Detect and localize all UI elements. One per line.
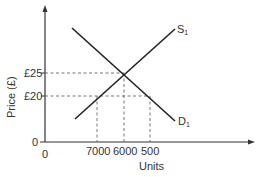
origin-x-label: 0 xyxy=(42,148,48,160)
demand-label: D1 xyxy=(178,115,190,128)
price-25-label: £25 xyxy=(24,67,42,79)
qty-6000-label: 6000 xyxy=(113,145,137,157)
price-20-label: £20 xyxy=(24,90,42,102)
origin-y-label: 0 xyxy=(32,136,38,148)
qty-500-label: 500 xyxy=(141,145,159,157)
supply-label: S1 xyxy=(177,23,188,36)
x-axis-label: Units xyxy=(139,160,165,172)
qty-7000-label: 7000 xyxy=(86,145,110,157)
x-axis-arrow-icon xyxy=(248,140,255,145)
y-axis-arrow-icon xyxy=(43,5,48,12)
supply-demand-chart: Price (£) £25 £20 0 0 7000 6000 500 Unit… xyxy=(0,0,257,177)
supply-curve xyxy=(75,29,175,119)
y-axis-label: Price (£) xyxy=(5,76,17,118)
